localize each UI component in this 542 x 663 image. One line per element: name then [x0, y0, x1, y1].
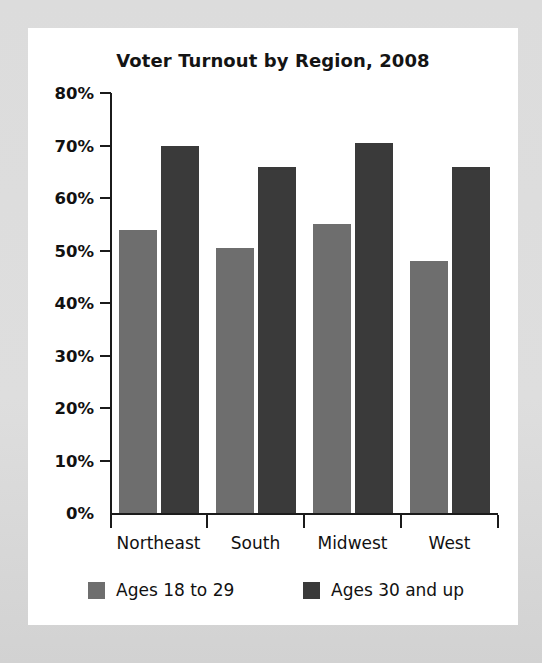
chart-legend: Ages 18 to 29Ages 30 and up [88, 580, 498, 610]
y-axis-tick-label: 70% [28, 136, 94, 155]
legend-label: Ages 30 and up [331, 580, 464, 600]
legend-swatch-icon [88, 582, 105, 599]
y-axis-tick-label: 80% [28, 84, 94, 103]
legend-swatch-icon [303, 582, 320, 599]
legend-item-ages-30-and-up[interactable]: Ages 30 and up [303, 580, 464, 600]
chart-card: Voter Turnout by Region, 2008 0%10%20%30… [28, 28, 518, 625]
y-axis-line [110, 93, 112, 515]
x-axis-separator-tick [206, 515, 208, 528]
y-axis-tick [100, 355, 111, 357]
y-axis-tick-label: 30% [28, 346, 94, 365]
bar-west-ages-30-and-up [452, 167, 490, 514]
bar-west-ages-18-to-29 [410, 261, 448, 513]
x-axis-separator-tick [303, 515, 305, 528]
y-axis-tick-label: 60% [28, 189, 94, 208]
x-axis-label-midwest: Midwest [317, 533, 387, 553]
y-axis-tick-label: 20% [28, 399, 94, 418]
x-axis-separator-tick [110, 515, 112, 528]
y-axis-tick-label: 0% [28, 504, 94, 523]
legend-item-ages-18-to-29[interactable]: Ages 18 to 29 [88, 580, 234, 600]
y-axis-tick [100, 460, 111, 462]
y-axis-tick-label: 10% [28, 451, 94, 470]
bar-northeast-ages-18-to-29 [119, 230, 157, 514]
y-axis-tick [100, 407, 111, 409]
y-axis-tick [100, 145, 111, 147]
x-axis-separator-tick [400, 515, 402, 528]
page-background: Voter Turnout by Region, 2008 0%10%20%30… [0, 0, 542, 663]
y-axis-tick [100, 92, 111, 94]
bar-midwest-ages-18-to-29 [313, 224, 351, 513]
y-axis-tick-label: 40% [28, 294, 94, 313]
x-axis-separator-tick [497, 515, 499, 528]
bar-south-ages-18-to-29 [216, 248, 254, 513]
y-axis-tick [100, 302, 111, 304]
x-axis-label-northeast: Northeast [117, 533, 201, 553]
y-axis-tick-label: 50% [28, 241, 94, 260]
x-axis-label-west: West [429, 533, 471, 553]
plot-area: 0%10%20%30%40%50%60%70%80% NortheastSout… [28, 28, 518, 625]
bar-midwest-ages-30-and-up [355, 143, 393, 513]
bar-northeast-ages-30-and-up [161, 146, 199, 514]
y-axis-tick [100, 250, 111, 252]
y-axis-tick [100, 197, 111, 199]
bar-south-ages-30-and-up [258, 167, 296, 514]
legend-label: Ages 18 to 29 [116, 580, 234, 600]
x-axis-label-south: South [231, 533, 280, 553]
